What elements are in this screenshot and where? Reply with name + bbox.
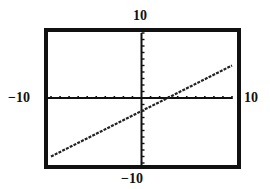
- graph-screen: [0, 0, 270, 189]
